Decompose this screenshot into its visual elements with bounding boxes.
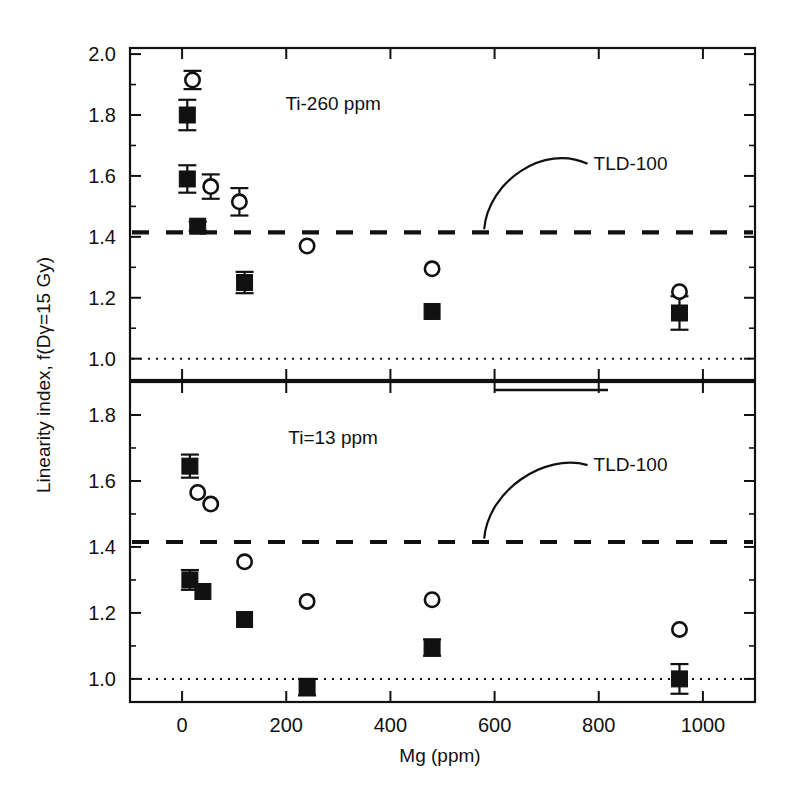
linearity-index-scatter-chart: 1.01.21.41.61.82.0Ti-260 ppmTLD-1001.01.…	[0, 0, 794, 797]
data-point	[670, 296, 688, 330]
marker-open-circle	[204, 179, 218, 193]
data-point	[230, 188, 248, 215]
data-point	[178, 165, 196, 192]
data-point	[425, 593, 439, 607]
x-tick-label-5: 1000	[681, 714, 726, 736]
data-point	[237, 612, 253, 628]
x-tick-label-3: 600	[478, 714, 511, 736]
marker-filled-square	[671, 671, 687, 687]
marker-open-circle	[425, 593, 439, 607]
panel-annotation-top: Ti-260 ppm	[285, 93, 380, 114]
marker-filled-square	[671, 305, 687, 321]
marker-open-circle	[191, 485, 205, 499]
x-tick-label-4: 800	[582, 714, 615, 736]
y-tick-label-bottom-1: 1.2	[88, 602, 116, 624]
marker-filled-square	[237, 275, 253, 291]
y-tick-label-top-2: 1.4	[88, 226, 116, 248]
marker-filled-square	[190, 218, 206, 234]
y-tick-label-top-3: 1.6	[88, 165, 116, 187]
data-point	[672, 622, 686, 636]
marker-filled-square	[179, 171, 195, 187]
data-point	[423, 639, 441, 655]
x-axis-label: Mg (ppm)	[399, 745, 480, 766]
marker-filled-square	[182, 458, 198, 474]
marker-open-circle	[300, 239, 314, 253]
panel-bottom: 1.01.21.41.61.8Ti=13 ppmTLD-100	[88, 382, 755, 702]
tld100-leader-top	[484, 158, 587, 229]
data-point	[300, 239, 314, 253]
marker-open-circle	[425, 262, 439, 276]
data-point	[202, 174, 220, 198]
marker-open-circle	[237, 555, 251, 569]
marker-open-circle	[300, 594, 314, 608]
data-point	[184, 71, 202, 89]
data-point	[670, 664, 688, 694]
x-tick-label-0: 0	[177, 714, 188, 736]
data-point	[672, 284, 686, 298]
data-point	[195, 583, 211, 599]
data-point	[204, 497, 218, 511]
y-axis-label: Linearity index, f(Dγ=15 Gy)	[33, 257, 54, 493]
marker-filled-square	[237, 612, 253, 628]
marker-open-circle	[672, 284, 686, 298]
data-point	[298, 679, 316, 695]
data-point	[236, 272, 254, 293]
y-tick-label-bottom-2: 1.4	[88, 536, 116, 558]
marker-filled-square	[424, 640, 440, 656]
panel-frame-top	[130, 48, 755, 380]
panel-top: 1.01.21.41.61.82.0Ti-260 ppmTLD-100	[88, 43, 755, 380]
y-tick-label-bottom-4: 1.8	[88, 404, 116, 426]
y-tick-label-bottom-3: 1.6	[88, 470, 116, 492]
series-filled-squares-top	[178, 100, 688, 330]
marker-open-circle	[185, 73, 199, 87]
marker-filled-square	[195, 583, 211, 599]
tld100-label-top: TLD-100	[594, 153, 668, 174]
data-point	[424, 303, 440, 319]
data-point	[191, 485, 205, 499]
tld100-leader-bottom	[484, 463, 587, 539]
panel-annotation-bottom: Ti=13 ppm	[288, 427, 378, 448]
data-point	[178, 100, 196, 130]
y-tick-label-top-1: 1.2	[88, 287, 116, 309]
x-tick-label-2: 400	[374, 714, 407, 736]
y-tick-label-top-4: 1.8	[88, 104, 116, 126]
marker-open-circle	[204, 497, 218, 511]
marker-open-circle	[232, 195, 246, 209]
y-tick-label-top-0: 1.0	[88, 348, 116, 370]
data-point	[181, 455, 199, 478]
figure-container: 1.01.21.41.61.82.0Ti-260 ppmTLD-1001.01.…	[0, 0, 794, 797]
data-point	[300, 594, 314, 608]
data-point	[189, 218, 207, 234]
marker-open-circle	[672, 622, 686, 636]
series-open-circles-bottom	[191, 485, 687, 636]
marker-filled-square	[424, 303, 440, 319]
marker-filled-square	[299, 679, 315, 695]
x-tick-label-1: 200	[270, 714, 303, 736]
data-point	[237, 555, 251, 569]
tld100-label-bottom: TLD-100	[594, 454, 668, 475]
y-tick-label-top-5: 2.0	[88, 43, 116, 65]
series-filled-squares-bottom	[181, 455, 689, 696]
marker-filled-square	[179, 107, 195, 123]
y-tick-label-bottom-0: 1.0	[88, 668, 116, 690]
series-open-circles-top	[184, 71, 687, 299]
data-point	[425, 262, 439, 276]
